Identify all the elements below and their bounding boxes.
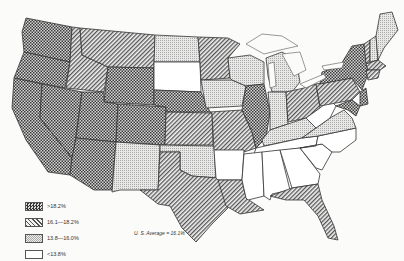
legend-label: 13.8—16.0%: [47, 235, 79, 241]
state-iowa: [201, 80, 246, 108]
state-kansas: [165, 112, 213, 145]
legend-label: <13.8%: [47, 251, 66, 257]
state-arkansas: [214, 150, 244, 180]
state-wyoming: [104, 67, 154, 105]
legend-swatch-dots: [25, 234, 43, 243]
state-north-dakota: [154, 35, 200, 62]
legend-item-high: 16.1—18.2%: [25, 215, 79, 229]
legend-label: >18.2%: [47, 203, 66, 209]
legend-item-low: <13.8%: [25, 247, 79, 261]
lake-superior: [246, 34, 298, 54]
state-south-dakota: [154, 62, 201, 92]
legend-item-medium: 13.8—16.0%: [25, 231, 79, 245]
legend-swatch-blank: [25, 250, 43, 259]
us-average-label: U. S. Average = 16.1%: [134, 230, 185, 236]
state-new-jersey: [360, 88, 368, 106]
legend-label: 16.1—18.2%: [47, 219, 79, 225]
legend-item-highest: >18.2%: [25, 199, 79, 213]
state-florida: [270, 184, 338, 240]
state-maine: [376, 12, 398, 60]
state-mississippi: [242, 152, 264, 200]
state-indiana: [268, 92, 288, 130]
state-arizona: [70, 138, 116, 190]
state-colorado: [116, 104, 166, 145]
map-legend: >18.2% 16.1—18.2% 13.8—16.0% <13.8%: [25, 199, 79, 261]
state-new-mexico: [112, 142, 160, 192]
state-connecticut-ri: [366, 70, 380, 80]
legend-swatch-hatch: [25, 218, 43, 227]
legend-swatch-dark-checker: [25, 202, 43, 211]
